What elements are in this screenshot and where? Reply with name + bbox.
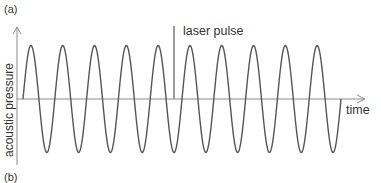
laser-pulse-label: laser pulse	[183, 25, 243, 38]
acoustic-wave	[23, 46, 341, 153]
x-axis-label: time	[346, 104, 370, 117]
y-axis-label: acoustic pressure	[3, 63, 15, 157]
panel-b-label: (b)	[4, 172, 17, 183]
panel-a-label: (a)	[4, 4, 17, 15]
